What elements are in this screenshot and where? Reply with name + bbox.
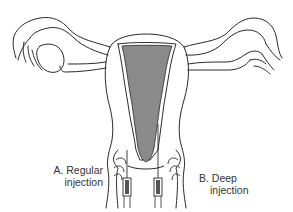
label-deep-injection: B. Deep injection	[199, 172, 269, 196]
label-a-line2: injection	[37, 176, 103, 188]
label-b-line2: injection	[199, 184, 269, 196]
label-regular-injection: A. Regular injection	[37, 164, 103, 188]
left-hand	[114, 158, 126, 180]
left-fimbriae	[18, 38, 42, 70]
right-hand	[168, 158, 180, 180]
right-fimbriae	[246, 44, 280, 74]
label-b-line1: B. Deep	[199, 172, 269, 184]
label-a-line1: A. Regular	[37, 164, 103, 176]
right-fallopian-tube	[184, 18, 282, 74]
left-fallopian-tube	[13, 18, 110, 73]
cervix	[128, 166, 164, 169]
